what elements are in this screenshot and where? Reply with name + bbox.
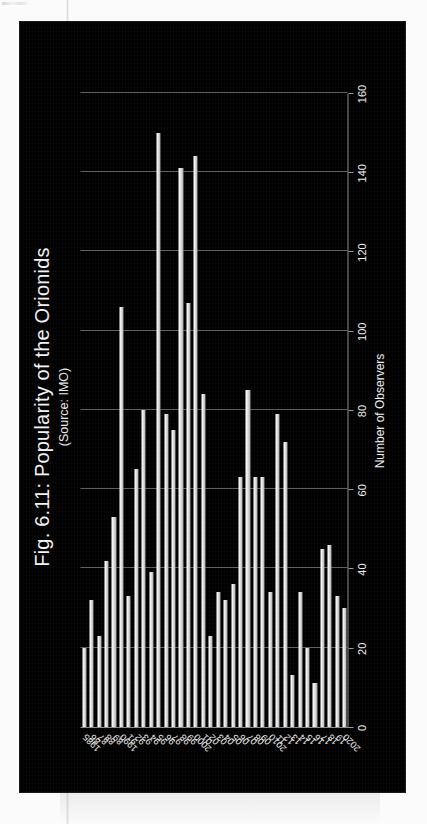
bar[interactable] — [305, 648, 309, 727]
bar[interactable] — [164, 414, 168, 727]
bar[interactable] — [97, 636, 101, 727]
rotated-chart-container: Fig. 6.11: Popularity of the Orionids (S… — [20, 22, 405, 792]
bar[interactable] — [320, 549, 324, 727]
figure-panel: Fig. 6.11: Popularity of the Orionids (S… — [20, 22, 405, 792]
bar[interactable] — [327, 545, 331, 727]
bar-row[interactable] — [147, 94, 154, 727]
bar[interactable] — [156, 133, 160, 727]
value-axis-tick-label: 0 — [355, 725, 367, 731]
bar-row[interactable] — [162, 94, 169, 727]
bar-row[interactable] — [259, 94, 266, 727]
bar-row[interactable] — [229, 94, 236, 727]
bar-row[interactable] — [199, 94, 206, 727]
bar-row[interactable] — [110, 94, 117, 727]
value-axis-tick — [348, 648, 353, 649]
bar[interactable] — [208, 636, 212, 727]
bar-row[interactable] — [341, 94, 348, 727]
bar-row[interactable] — [184, 94, 191, 727]
bar-row[interactable] — [125, 94, 132, 727]
bar-row[interactable] — [244, 94, 251, 727]
bar[interactable] — [283, 442, 287, 727]
bar-row[interactable] — [281, 94, 288, 727]
bar-row[interactable] — [169, 94, 176, 727]
gridline — [80, 92, 347, 93]
bar[interactable] — [253, 477, 257, 727]
bar-row[interactable] — [80, 94, 87, 727]
value-axis-tick — [348, 331, 353, 332]
bar-row[interactable] — [177, 94, 184, 727]
bar-row[interactable] — [303, 94, 310, 727]
bar-row[interactable] — [140, 94, 147, 727]
bar[interactable] — [149, 572, 153, 727]
value-axis-tick-label: 80 — [355, 405, 367, 417]
bar[interactable] — [216, 592, 220, 727]
bar[interactable] — [342, 608, 346, 727]
category-axis: 1985868788891990919293949596979899200001… — [80, 728, 348, 792]
bar-row[interactable] — [95, 94, 102, 727]
plot-area — [80, 94, 348, 728]
bar-row[interactable] — [132, 94, 139, 727]
title-block: Fig. 6.11: Popularity of the Orionids (S… — [30, 22, 70, 792]
bar-row[interactable] — [236, 94, 243, 727]
bar-row[interactable] — [251, 94, 258, 727]
value-axis-tick — [348, 489, 353, 490]
bar-row[interactable] — [288, 94, 295, 727]
value-axis-tick-label: 20 — [355, 643, 367, 655]
bar-row[interactable] — [333, 94, 340, 727]
page-shadow — [60, 792, 380, 824]
bar[interactable] — [245, 390, 249, 727]
bar-row[interactable] — [318, 94, 325, 727]
bar[interactable] — [126, 596, 130, 727]
bar-row[interactable] — [266, 94, 273, 727]
value-axis-tick — [348, 93, 353, 94]
bar[interactable] — [82, 648, 86, 727]
bar-row[interactable] — [87, 94, 94, 727]
bar[interactable] — [141, 410, 145, 727]
chart-subtitle: (Source: IMO) — [56, 22, 70, 792]
bar[interactable] — [186, 303, 190, 727]
chart-title: Fig. 6.11: Popularity of the Orionids — [30, 22, 53, 792]
bar[interactable] — [89, 600, 93, 727]
bar-row[interactable] — [207, 94, 214, 727]
value-axis-tick-label: 60 — [355, 484, 367, 496]
bar[interactable] — [238, 477, 242, 727]
bar-row[interactable] — [214, 94, 221, 727]
value-axis-tick — [348, 410, 353, 411]
value-axis-tick — [348, 569, 353, 570]
value-axis-tick — [348, 172, 353, 173]
bar-row[interactable] — [192, 94, 199, 727]
bar[interactable] — [134, 469, 138, 727]
bar[interactable] — [260, 477, 264, 727]
bar[interactable] — [290, 676, 294, 728]
bar[interactable] — [312, 683, 316, 727]
bar[interactable] — [104, 561, 108, 727]
value-axis-tick-label: 120 — [355, 243, 367, 261]
bar[interactable] — [193, 156, 197, 727]
bar[interactable] — [223, 600, 227, 727]
value-axis-title: Number of Observers — [372, 94, 386, 728]
bar-row[interactable] — [221, 94, 228, 727]
bar[interactable] — [335, 596, 339, 727]
bar[interactable] — [171, 430, 175, 727]
bar-row[interactable] — [326, 94, 333, 727]
bar-row[interactable] — [117, 94, 124, 727]
bar[interactable] — [201, 394, 205, 727]
value-axis-tick-label: 40 — [355, 563, 367, 575]
bar-row[interactable] — [102, 94, 109, 727]
bar-row[interactable] — [274, 94, 281, 727]
bars-layer — [80, 94, 347, 727]
bar-chart: Fig. 6.11: Popularity of the Orionids (S… — [20, 22, 405, 792]
bar-row[interactable] — [296, 94, 303, 727]
bar[interactable] — [119, 307, 123, 727]
bar[interactable] — [178, 168, 182, 727]
value-axis-tick-label: 100 — [355, 323, 367, 341]
bar-row[interactable] — [154, 94, 161, 727]
value-axis-tick-label: 160 — [355, 85, 367, 103]
scan-artifact — [2, 2, 28, 5]
bar[interactable] — [111, 517, 115, 727]
bar[interactable] — [231, 584, 235, 727]
bar[interactable] — [268, 592, 272, 727]
bar[interactable] — [298, 592, 302, 727]
bar[interactable] — [275, 414, 279, 727]
bar-row[interactable] — [311, 94, 318, 727]
